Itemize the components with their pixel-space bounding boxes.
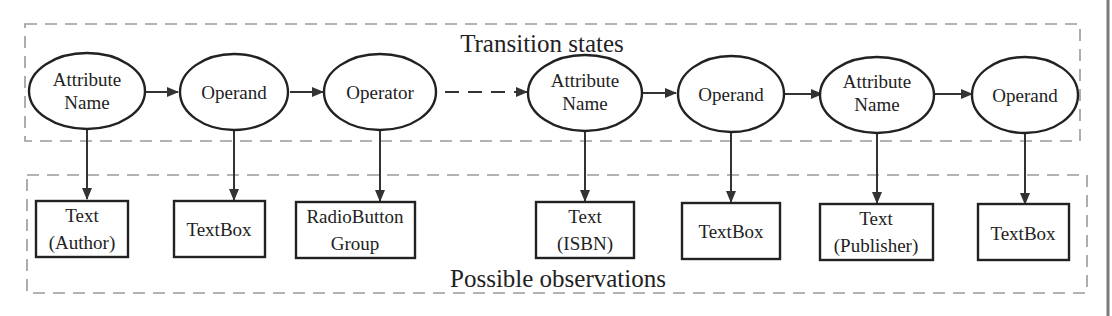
svg-text:RadioButton: RadioButton: [306, 206, 404, 227]
svg-text:TextBox: TextBox: [990, 223, 1056, 244]
svg-text:Name: Name: [562, 93, 607, 114]
transition-group-title: Transition states: [460, 30, 624, 57]
observation-node: Text (Author): [36, 201, 128, 257]
state-node: Attribute Name: [528, 55, 642, 131]
svg-text:(ISBN): (ISBN): [557, 233, 613, 255]
state-node: Operand: [678, 56, 784, 132]
svg-text:(Author): (Author): [49, 232, 115, 254]
state-node: Operator: [324, 54, 436, 130]
svg-text:Operand: Operand: [201, 82, 267, 103]
state-node: Operand: [972, 57, 1078, 133]
svg-text:Name: Name: [64, 92, 109, 113]
svg-text:(Publisher): (Publisher): [834, 235, 918, 257]
observation-node: TextBox: [682, 203, 780, 259]
svg-text:Attribute: Attribute: [843, 71, 912, 92]
svg-text:Operator: Operator: [346, 82, 414, 103]
svg-text:TextBox: TextBox: [186, 219, 252, 240]
state-node: Operand: [180, 54, 288, 130]
observation-group-title: Possible observations: [450, 265, 666, 292]
observation-node: Text (Publisher): [820, 204, 933, 260]
observation-node: Text (ISBN): [536, 202, 634, 258]
observation-node: RadioButton Group: [296, 202, 415, 258]
state-node: Attribute Name: [820, 57, 934, 133]
svg-text:Text: Text: [568, 206, 602, 227]
svg-text:Text: Text: [65, 205, 99, 226]
observation-node: TextBox: [174, 201, 265, 257]
state-node: Attribute Name: [29, 53, 145, 129]
svg-text:Text: Text: [859, 208, 893, 229]
svg-text:Operand: Operand: [698, 84, 764, 105]
hmm-diagram: Transition states Possible observations …: [0, 0, 1112, 316]
svg-text:Group: Group: [331, 233, 380, 254]
svg-text:Operand: Operand: [992, 85, 1058, 106]
svg-text:Attribute: Attribute: [53, 69, 122, 90]
observation-node: TextBox: [978, 204, 1069, 260]
svg-text:Attribute: Attribute: [551, 70, 620, 91]
svg-text:TextBox: TextBox: [698, 221, 764, 242]
svg-text:Name: Name: [854, 94, 899, 115]
